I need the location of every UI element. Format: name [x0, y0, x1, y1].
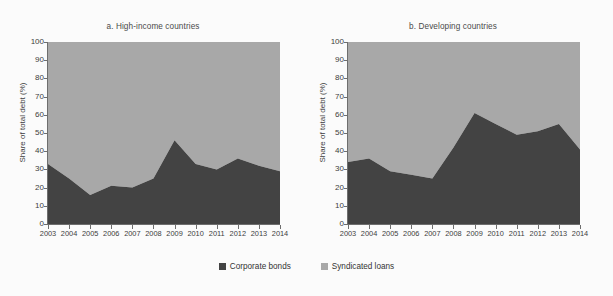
panel-b-title: b. Developing countries: [308, 22, 598, 31]
y-tick-label: 80: [10, 74, 44, 82]
y-tick-label: 0: [310, 220, 344, 228]
panel-b-area-svg: [348, 42, 580, 224]
y-tick-label: 20: [10, 184, 44, 192]
chart-legend: Corporate bondsSyndicated loans: [0, 262, 613, 271]
panel-a-area-svg: [48, 42, 280, 224]
chart-panel-b: b. Developing countries Share of total d…: [308, 22, 598, 250]
y-tick-label: 50: [10, 129, 44, 137]
panel-a-title: a. High-income countries: [8, 22, 298, 31]
y-tick-label: 80: [310, 74, 344, 82]
y-tick-label: 0: [10, 220, 44, 228]
panel-b-series-group: [348, 42, 580, 224]
y-tick-label: 70: [310, 93, 344, 101]
y-tick-label: 30: [310, 165, 344, 173]
legend-item[interactable]: Corporate bonds: [219, 262, 291, 271]
panel-a-x-axis-line: [47, 224, 280, 225]
y-tick-label: 40: [310, 147, 344, 155]
x-tick-label: 2014: [265, 230, 295, 238]
y-tick-label: 90: [10, 56, 44, 64]
y-tick-label: 100: [310, 38, 344, 46]
panel-b-plot-area: [348, 42, 580, 224]
panel-b-x-axis-line: [347, 224, 580, 225]
y-tick-label: 90: [310, 56, 344, 64]
y-tick-label: 40: [10, 147, 44, 155]
legend-item[interactable]: Syndicated loans: [321, 262, 394, 271]
figure-canvas: a. High-income countries Share of total …: [0, 0, 613, 296]
legend-label: Syndicated loans: [332, 262, 394, 271]
y-tick-label: 10: [10, 202, 44, 210]
y-tick-label: 60: [310, 111, 344, 119]
x-tick-label: 2014: [565, 230, 595, 238]
panel-a-y-ticks: 0102030405060708090100: [8, 42, 44, 224]
square-swatch-icon: [321, 263, 328, 270]
y-tick-label: 20: [310, 184, 344, 192]
y-tick-label: 60: [10, 111, 44, 119]
y-tick-label: 10: [310, 202, 344, 210]
legend-label: Corporate bonds: [230, 262, 291, 271]
chart-panel-a: a. High-income countries Share of total …: [8, 22, 298, 250]
panel-b-y-ticks: 0102030405060708090100: [308, 42, 344, 224]
y-tick-label: 30: [10, 165, 44, 173]
y-tick-label: 50: [310, 129, 344, 137]
panel-a-series-group: [48, 42, 280, 224]
y-tick-label: 70: [10, 93, 44, 101]
panel-a-plot-area: [48, 42, 280, 224]
y-tick-label: 100: [10, 38, 44, 46]
square-swatch-icon: [219, 263, 226, 270]
